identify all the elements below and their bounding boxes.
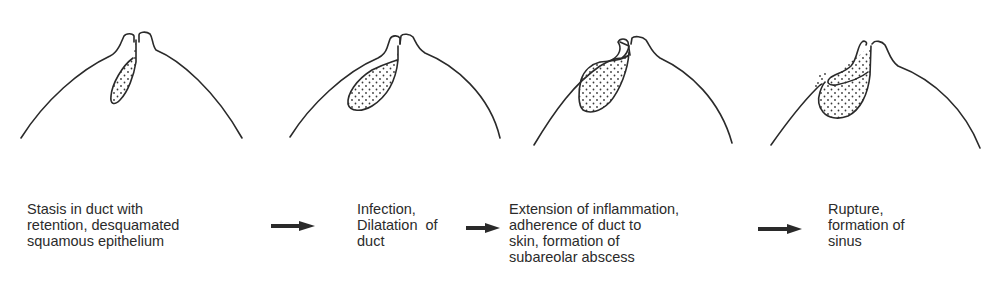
caption-line: skin, formation of — [509, 233, 679, 249]
caption-line: Rupture, — [828, 201, 905, 217]
caption-line: retention, desquamated — [27, 217, 179, 233]
abscess — [579, 52, 629, 112]
caption-line: formation of — [828, 217, 905, 233]
caption-line: Extension of inflammation, — [509, 201, 679, 217]
nipple-right — [631, 37, 732, 143]
stage-illustrations — [0, 0, 1005, 295]
arrow-1-to-2 — [271, 221, 315, 231]
arrow-2-to-3 — [466, 223, 500, 233]
nipple-right — [400, 34, 500, 138]
caption-line: adherence of duct to — [509, 217, 679, 233]
caption-line: Infection, — [357, 201, 438, 217]
dilated-duct — [348, 46, 398, 110]
stage-2-caption: Infection, Dilatation of duct — [357, 201, 438, 249]
nipple-right — [139, 32, 242, 138]
nipple-right — [872, 41, 980, 148]
stage-3-caption: Extension of inflammation, adherence of … — [509, 201, 679, 265]
caption-line: Dilatation of — [357, 217, 438, 233]
stage-4-caption: Rupture, formation of sinus — [828, 201, 905, 249]
breast-contour — [771, 84, 822, 145]
arrow-3-to-4 — [758, 224, 802, 234]
caption-line: sinus — [828, 233, 905, 249]
caption-line: Stasis in duct with — [27, 201, 179, 217]
caption-line: subareolar abscess — [509, 249, 679, 265]
stage-4-illustration — [771, 41, 980, 148]
caption-line: squamous epithelium — [27, 233, 179, 249]
stage-2-illustration — [290, 34, 500, 138]
stage-1-illustration — [21, 32, 242, 138]
stage-1-caption: Stasis in duct with retention, desquamat… — [27, 201, 179, 249]
duct-lumen — [111, 40, 136, 103]
caption-line: duct — [357, 233, 438, 249]
stage-3-illustration — [534, 37, 732, 145]
